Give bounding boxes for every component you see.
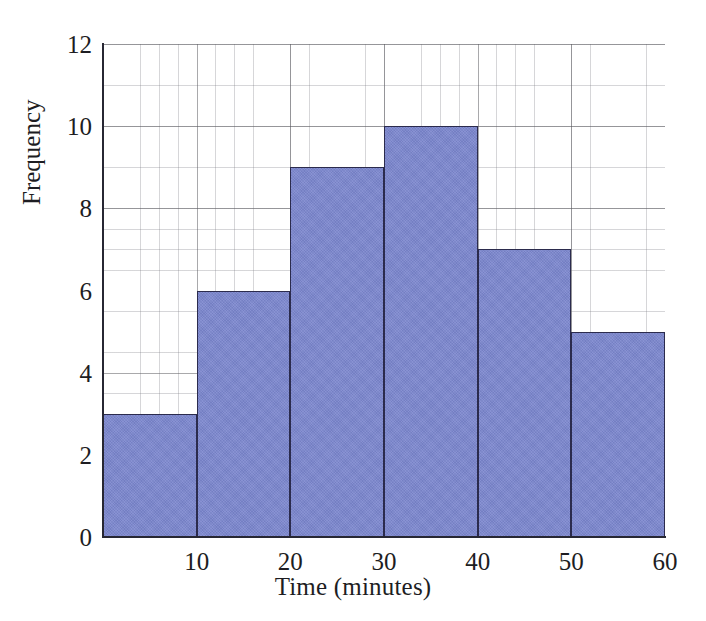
x-axis-tick-label: 10 bbox=[184, 549, 209, 574]
y-axis-tick-label: 12 bbox=[50, 32, 92, 57]
histogram-bar bbox=[478, 249, 572, 537]
y-axis-tick-label: 0 bbox=[50, 525, 92, 550]
y-axis-tick-label: 4 bbox=[50, 360, 92, 385]
x-axis-tick-label: 20 bbox=[278, 549, 303, 574]
histogram-bar bbox=[103, 414, 197, 537]
y-axis-tick-label: 10 bbox=[50, 114, 92, 139]
histogram-bar bbox=[571, 332, 665, 537]
y-axis-line bbox=[102, 43, 104, 538]
histogram-bar bbox=[384, 126, 478, 537]
y-axis-title: Frequency bbox=[18, 99, 46, 205]
bars-layer bbox=[103, 44, 665, 537]
y-axis-tick-label: 2 bbox=[50, 442, 92, 467]
histogram-bar bbox=[290, 167, 384, 537]
x-axis-line bbox=[102, 536, 666, 538]
x-axis-tick-label: 50 bbox=[559, 549, 584, 574]
y-axis-tick-label: 6 bbox=[50, 278, 92, 303]
y-axis-tick-label: 8 bbox=[50, 196, 92, 221]
histogram-bar bbox=[197, 291, 291, 538]
x-axis-tick-label: 30 bbox=[372, 549, 397, 574]
x-axis-title: Time (minutes) bbox=[0, 573, 706, 601]
histogram-chart: 024681012 102030405060 Time (minutes) Fr… bbox=[0, 0, 706, 621]
x-axis-tick-label: 40 bbox=[465, 549, 490, 574]
x-axis-tick-label: 60 bbox=[653, 549, 678, 574]
